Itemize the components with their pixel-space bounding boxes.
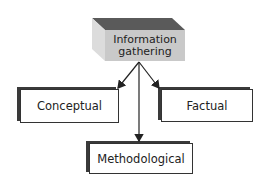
arrow-to-conceptual <box>118 62 139 88</box>
diagram-canvas: Information gathering Conceptual Factual… <box>0 0 268 185</box>
arrow-to-factual <box>139 62 159 88</box>
connector-arrows <box>0 0 268 185</box>
